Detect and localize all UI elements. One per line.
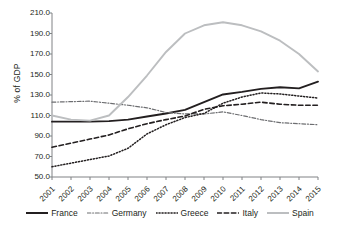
legend-swatch-germany-icon — [87, 209, 109, 217]
legend-label: Greece — [181, 208, 209, 218]
legend-swatch-spain-icon — [267, 209, 289, 217]
chart-legend: FranceGermanyGreeceItalySpain — [0, 208, 340, 218]
legend-item-spain[interactable]: Spain — [267, 208, 314, 218]
legend-swatch-greece-icon — [156, 209, 178, 217]
legend-label: France — [51, 208, 77, 218]
legend-item-germany[interactable]: Germany — [87, 208, 147, 218]
legend-item-france[interactable]: France — [26, 208, 77, 218]
legend-swatch-italy-icon — [217, 209, 239, 217]
legend-label: Spain — [292, 208, 314, 218]
legend-label: Germany — [112, 208, 147, 218]
legend-item-greece[interactable]: Greece — [156, 208, 209, 218]
legend-swatch-france-icon — [26, 209, 48, 217]
x-axis-tick-labels: 2001200220032004200520062007200820092010… — [0, 0, 340, 234]
legend-label: Italy — [242, 208, 258, 218]
line-chart: % of GDP 50.070.090.0110.0130.0150.0170.… — [0, 0, 340, 234]
legend-item-italy[interactable]: Italy — [217, 208, 258, 218]
